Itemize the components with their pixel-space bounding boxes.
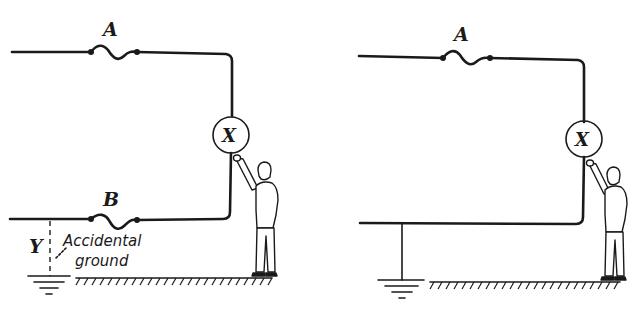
right-panel: A X	[359, 23, 627, 298]
fuse-a-label: A	[452, 23, 469, 45]
top-wire-right	[359, 51, 584, 122]
earth-ground-icon	[378, 280, 424, 298]
floor-hatch	[430, 282, 620, 289]
person-figure-icon	[234, 155, 279, 276]
bottom-wire-left	[10, 153, 231, 229]
annotation-accidental: Accidental	[62, 232, 142, 250]
fuse-b-icon	[91, 215, 137, 229]
fuse-a-label: A	[101, 18, 118, 40]
person-figure-icon	[587, 160, 628, 280]
load-x-label: X	[574, 129, 590, 150]
annotation-ground: ground	[75, 252, 129, 270]
ground-y-label: Y	[29, 235, 45, 257]
fuse-b-label: B	[102, 188, 119, 210]
circuit-diagram: A X B Y Accidental ground	[0, 0, 636, 318]
left-panel: A X B Y Accidental ground	[10, 18, 278, 294]
fuse-a-icon	[443, 51, 490, 64]
bottom-wire-right	[360, 157, 584, 224]
top-wire-left	[12, 46, 232, 116]
fuse-a-icon	[91, 46, 137, 59]
earth-ground-icon	[28, 276, 70, 294]
floor-hatch	[76, 278, 272, 285]
load-x-label: X	[221, 125, 237, 146]
